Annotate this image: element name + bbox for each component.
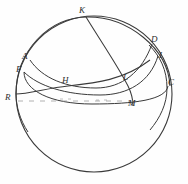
point-label-I: I (159, 51, 162, 60)
point-label-K: K (79, 6, 85, 15)
arc-f-to-i (24, 56, 158, 95)
meridian-k-l-m (86, 17, 133, 106)
point-label-C: C (168, 78, 174, 87)
point-label-L: L (123, 73, 128, 82)
point-label-F: F (16, 65, 22, 74)
sphere-outline (16, 16, 172, 172)
point-label-D: D (151, 35, 158, 44)
arc-a-h-l-d (30, 44, 152, 88)
point-label-R: R (5, 93, 11, 102)
lower-dash-marks (60, 99, 110, 100)
point-label-A: A (22, 52, 28, 61)
figure-canvas (0, 0, 188, 184)
point-label-M: M (128, 99, 136, 108)
arc-d-i-c (149, 45, 167, 130)
spherical-geometry-figure: K D I A F H L C R M (0, 0, 188, 184)
point-label-H: H (62, 76, 69, 85)
